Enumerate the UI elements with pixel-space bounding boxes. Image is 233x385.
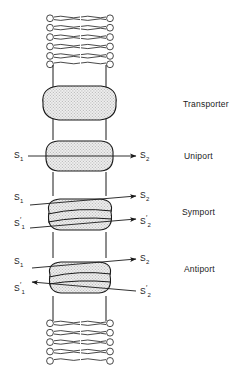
prime-mark: ′ xyxy=(146,284,148,291)
bilayer-tails-bottom xyxy=(54,321,106,360)
prime-mark: ′ xyxy=(20,216,22,223)
symport-substrate-right-2: S′2 xyxy=(140,214,151,228)
label-antiport: Antiport xyxy=(184,264,215,274)
label-transporter: Transporter xyxy=(183,99,229,109)
symport-substrate-left-1: S1 xyxy=(14,192,23,204)
label-uniport: Uniport xyxy=(184,151,213,161)
bilayer-tails-top xyxy=(54,16,106,64)
substrate-subscript: 2 xyxy=(146,259,150,265)
substrate-subscript: 1 xyxy=(20,198,24,204)
substrate-subscript: 2 xyxy=(146,196,150,202)
substrate-subscript: 2 xyxy=(147,292,151,298)
bottom-bilayer xyxy=(47,320,114,364)
substrate-subscript: 1 xyxy=(20,262,24,268)
substrate-subscript: 2 xyxy=(147,222,151,228)
symport-substrate-right-1: S2 xyxy=(140,190,149,202)
prime-mark: ′ xyxy=(146,214,148,221)
protein-transporter xyxy=(43,86,116,120)
bilayer-heads-top xyxy=(47,15,114,68)
prime-mark: ′ xyxy=(20,281,22,288)
membrane-transport-figure: Transporter Uniport Symport Antiport S1 … xyxy=(0,0,233,385)
top-bilayer xyxy=(47,15,114,68)
antiport-substrate-left-2: S′1 xyxy=(14,281,25,295)
antiport-substrate-right-1: S2 xyxy=(140,253,149,265)
label-symport: Symport xyxy=(182,207,215,217)
substrate-subscript: 1 xyxy=(20,156,24,162)
antiport-substrate-right-2: S′2 xyxy=(140,284,151,298)
antiport-substrate-left-1: S1 xyxy=(14,256,23,268)
substrate-subscript: 1 xyxy=(21,289,25,295)
bilayer-heads-bottom xyxy=(47,320,114,364)
substrate-subscript: 2 xyxy=(146,156,150,162)
uniport-substrate-right: S2 xyxy=(140,150,149,162)
substrate-subscript: 1 xyxy=(21,224,25,230)
symport-substrate-left-2: S′1 xyxy=(14,216,25,230)
diagram-canvas xyxy=(0,0,233,385)
uniport-substrate-left: S1 xyxy=(14,150,23,162)
